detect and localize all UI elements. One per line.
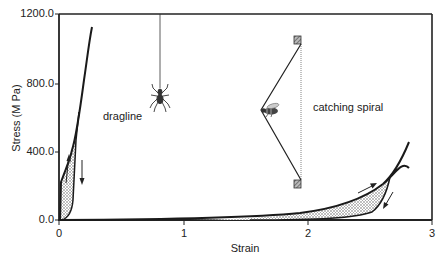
dragline-unloading-arrow [80,160,85,185]
y-axis-label: Stress (M Pa) [10,78,22,158]
spider-icon [150,14,170,112]
x-tick-label-0: 0 [56,228,62,239]
x-axis-label: Strain [231,242,260,254]
y-tick-label-800: 800.0 [26,78,54,89]
catching-spiral-annotation: catching spiral [313,101,383,113]
x-tick-label-3: 3 [429,228,435,239]
y-tick-label-1200: 1200.0 [20,8,54,19]
stress-strain-chart [0,0,444,262]
y-tick-label-400: 400.0 [26,146,54,157]
x-tick-label-1: 1 [181,228,187,239]
y-tick-label-0: 0.0 [39,214,54,225]
x-tick-label-2: 2 [305,228,311,239]
dragline-annotation: dragline [103,110,142,122]
